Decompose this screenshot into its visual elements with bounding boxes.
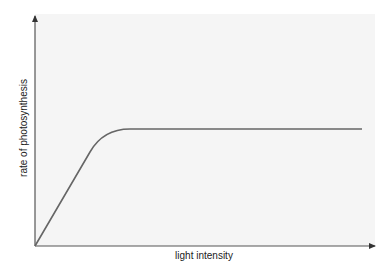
- chart: light intensity rate of photosynthesis: [0, 0, 392, 274]
- plot-area-background: [35, 14, 375, 246]
- x-axis-label: light intensity: [175, 250, 233, 261]
- y-axis-label: rate of photosynthesis: [18, 79, 29, 177]
